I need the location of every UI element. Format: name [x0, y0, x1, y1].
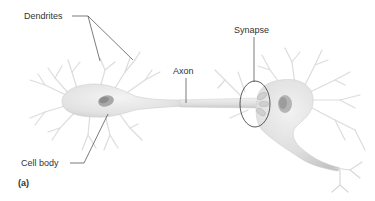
- label-cell-body: Cell body: [21, 158, 59, 168]
- label-synapse: Synapse: [234, 25, 269, 35]
- axon: [180, 98, 264, 108]
- panel-label: (a): [18, 178, 29, 188]
- left-cell-body: [62, 84, 185, 117]
- lower-processes: [332, 162, 362, 192]
- label-axon: Axon: [173, 66, 194, 76]
- label-dendrites: Dendrites: [24, 11, 63, 21]
- neuron-diagram: [0, 0, 375, 201]
